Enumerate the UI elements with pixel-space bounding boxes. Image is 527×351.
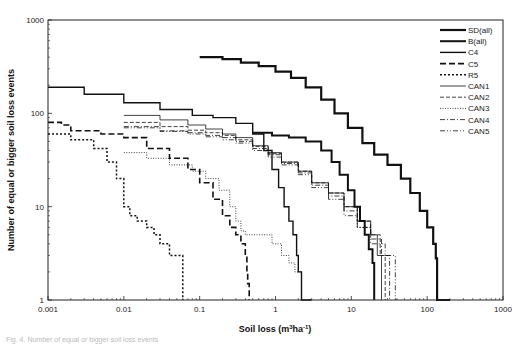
series-c5 [48,122,249,300]
x-tick-label: 1000 [494,305,512,314]
x-axis: 0.0010.010.11101001000 [38,296,512,314]
series-sd-all- [200,57,450,300]
series-can2 [124,122,385,300]
legend-label: CAN4 [468,116,490,125]
series-b-all- [253,133,375,300]
y-axis-title: Number of equal or bigger soil loss even… [6,69,16,251]
figure-caption: Fig. 4. Number of equal or bigger soil l… [6,336,158,343]
y-tick-label: 1000 [26,16,44,25]
series-c4 [48,87,312,300]
series-can3 [124,153,302,300]
legend-label: SD(all) [468,26,493,35]
x-tick-label: 1 [273,305,278,314]
x-axis-title: Soil loss (m3ha-1) [239,324,312,334]
legend-label: C4 [468,48,479,57]
chart: 0.0010.010.11101001000 1101001000 Soil l… [0,0,527,351]
legend-label: B(all) [468,37,487,46]
legend: SD(all)B(all)C4C5R5CAN1CAN2CAN3CAN4CAN5 [440,26,493,136]
legend-label: CAN2 [468,93,490,102]
legend-label: CAN1 [468,82,490,91]
legend-label: CAN3 [468,104,490,113]
x-tick-label: 0.1 [194,305,206,314]
y-tick-label: 10 [35,203,44,212]
legend-label: R5 [468,71,479,80]
series-r5 [48,134,183,300]
x-tick-label: 10 [347,305,356,314]
series-layer [48,57,450,300]
x-tick-label: 100 [420,305,434,314]
x-tick-label: 0.001 [38,305,59,314]
series-can5 [124,128,396,300]
y-tick-label: 1 [40,296,45,305]
x-tick-label: 0.01 [116,305,132,314]
legend-label: C5 [468,60,479,69]
legend-label: CAN5 [468,127,490,136]
series-can4 [124,127,390,300]
y-tick-label: 100 [31,109,45,118]
